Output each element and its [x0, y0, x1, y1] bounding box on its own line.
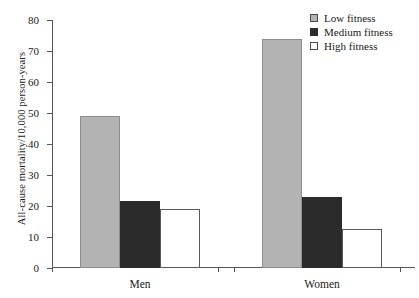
- bar-men-high: [160, 209, 200, 268]
- y-tick-label-10: 10: [28, 231, 39, 243]
- bar-men-medium: [120, 201, 160, 268]
- y-axis-line: [52, 20, 53, 268]
- bar-women-high: [342, 229, 382, 268]
- chart-legend: Low fitness Medium fitness High fitness: [310, 12, 393, 52]
- y-tick-label-20: 20: [28, 200, 39, 212]
- y-tick-50: 50: [47, 113, 52, 114]
- y-tick-label-50: 50: [28, 107, 39, 119]
- legend-swatch-medium-fitness: [310, 28, 318, 36]
- bar-women-medium: [302, 197, 342, 268]
- legend-label-high-fitness: High fitness: [324, 40, 377, 52]
- y-axis-title: All-cause mortality/10,000 person-years: [16, 19, 27, 259]
- y-tick-label-40: 40: [28, 138, 39, 150]
- x-tick-men-1: [218, 268, 219, 272]
- y-tick-60: 60: [47, 82, 52, 83]
- x-tick-women-0: [234, 268, 235, 272]
- y-tick-10: 10: [47, 237, 52, 238]
- y-tick-label-80: 80: [28, 14, 39, 26]
- legend-label-low-fitness: Low fitness: [324, 12, 376, 24]
- x-tick-men-0: [52, 268, 53, 272]
- y-tick-20: 20: [47, 206, 52, 207]
- bar-women-low: [262, 39, 302, 268]
- y-tick-label-60: 60: [28, 76, 39, 88]
- y-tick-30: 30: [47, 175, 52, 176]
- legend-label-medium-fitness: Medium fitness: [324, 26, 393, 38]
- legend-swatch-low-fitness: [310, 14, 318, 22]
- legend-item-high-fitness: High fitness: [310, 40, 393, 52]
- y-tick-label-30: 30: [28, 169, 39, 181]
- legend-item-low-fitness: Low fitness: [310, 12, 393, 24]
- y-tick-70: 70: [47, 51, 52, 52]
- x-axis-label-men: Men: [129, 278, 150, 290]
- plot-area: 01020304050607080 MenWomen: [52, 20, 415, 268]
- legend-swatch-high-fitness: [310, 42, 318, 50]
- y-tick-label-0: 0: [34, 262, 40, 274]
- x-axis-label-women: Women: [304, 278, 339, 290]
- legend-item-medium-fitness: Medium fitness: [310, 26, 393, 38]
- x-tick-women-1: [400, 268, 401, 272]
- y-tick-40: 40: [47, 144, 52, 145]
- chart-figure: All-cause mortality/10,000 person-years …: [0, 0, 419, 298]
- y-tick-80: 80: [47, 20, 52, 21]
- y-tick-label-70: 70: [28, 45, 39, 57]
- bar-men-low: [80, 116, 120, 268]
